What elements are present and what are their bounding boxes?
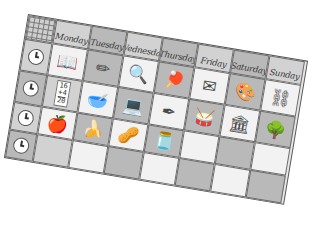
laptop-icon: 💻 <box>122 96 146 116</box>
weekly-schedule-board: Monday Tuesday Wednesday Thursday Friday… <box>4 14 308 205</box>
cell-tue-4 <box>68 140 108 174</box>
clock-icon <box>27 48 45 66</box>
letter-icon: ✉ <box>201 76 218 95</box>
clock-icon <box>17 109 35 127</box>
quill-icon: ✒ <box>160 102 177 121</box>
cell-mon-4 <box>33 134 73 168</box>
jar-icon: 🫙 <box>152 131 176 151</box>
easel-icon: 🎨 <box>233 82 257 102</box>
math-card: 16 +4 20 <box>53 80 72 108</box>
craft-pot-icon: 🥣 <box>86 90 110 110</box>
magnifier-icon: 🔍 <box>127 64 151 84</box>
math-line-3: 20 <box>56 96 66 105</box>
ping-pong-icon: 🏓 <box>162 70 186 90</box>
drum-icon: 🥁 <box>193 107 217 127</box>
cell-wed-4 <box>104 146 144 180</box>
cell-fri-4 <box>175 158 215 192</box>
tree-icon: 🌳 <box>264 119 288 139</box>
cell-sat-4 <box>210 164 250 198</box>
museum-icon: 🏛 <box>228 113 253 133</box>
book-icon: 📖 <box>56 52 80 72</box>
cell-thu-4 <box>139 152 179 186</box>
pencils-icon: ✏ <box>95 59 112 78</box>
swing-icon: ⛓ <box>268 88 293 108</box>
nuts-icon: 🥜 <box>117 125 141 145</box>
clock-icon <box>22 79 40 97</box>
apple-icon: 🍎 <box>46 113 70 133</box>
banana-icon: 🍌 <box>81 119 105 139</box>
cell-sun-4 <box>246 170 286 204</box>
clock-icon <box>12 136 30 154</box>
